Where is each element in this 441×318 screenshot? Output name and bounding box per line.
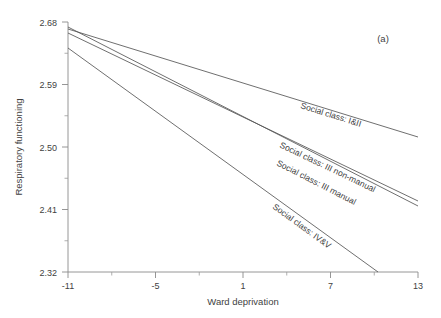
panel-label: (a) [377, 33, 389, 44]
series-label-social-class-i-ii: Social class: I&II [299, 100, 362, 128]
series-line-social-class-i-ii [68, 29, 418, 137]
series-line-social-class-iii-non-manual [68, 33, 418, 201]
y-tick-label-2-59: 2.59 [39, 80, 57, 90]
y-tick-label-2-50: 2.50 [39, 143, 57, 153]
x-tick-label-1: 1 [240, 281, 245, 291]
x-axis-title: Ward deprivation [207, 296, 278, 307]
respiratory-functioning-line-chart: 2.68 2.59 2.50 2.41 2.32 -11 -5 1 7 13 W… [0, 0, 441, 318]
series-line-social-class-iv-v [68, 48, 378, 272]
y-axis-title: Respiratory functioning [13, 98, 24, 195]
series-label-social-class-iv-v: Social class: IV&V [271, 202, 334, 251]
x-tick-label-minus-5: -5 [151, 281, 159, 291]
y-tick-label-2-41: 2.41 [39, 205, 57, 215]
y-tick-label-2-68: 2.68 [39, 18, 57, 28]
x-tick-label-7: 7 [328, 281, 333, 291]
x-tick-label-minus-11: -11 [62, 281, 74, 291]
x-tick-label-13: 13 [413, 281, 423, 291]
y-tick-label-2-32: 2.32 [39, 268, 57, 278]
chart-figure: 2.68 2.59 2.50 2.41 2.32 -11 -5 1 7 13 W… [0, 0, 441, 318]
